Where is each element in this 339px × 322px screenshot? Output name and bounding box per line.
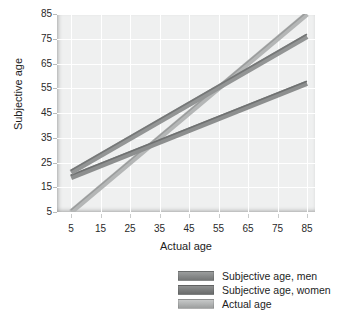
series-line-subjective-age-men	[71, 36, 307, 172]
series-line-subjective-age-women-edge	[71, 81, 307, 175]
x-axis-ticks: 5 15 25 35 45 55 65 75 85	[57, 214, 315, 240]
chart-legend: Subjective age, men Subjective age, wome…	[178, 269, 336, 311]
y-tick-label: 25	[30, 158, 52, 168]
legend-item-subjective-age-women: Subjective age, women	[178, 283, 336, 296]
y-tick-label: 65	[30, 59, 52, 69]
y-tick-label: 5	[30, 207, 52, 217]
x-tick-mark	[101, 214, 102, 218]
x-tick-mark	[71, 214, 72, 218]
x-tick-label: 5	[56, 223, 86, 234]
legend-swatch-icon	[178, 271, 214, 281]
series-line-subjective-age-women	[71, 83, 307, 177]
y-tick-label: 45	[30, 108, 52, 118]
x-tick-mark	[130, 214, 131, 218]
x-tick-mark	[189, 214, 190, 218]
legend-swatch-icon	[178, 285, 214, 295]
x-tick-label: 55	[204, 223, 234, 234]
legend-label: Subjective age, men	[222, 270, 317, 282]
x-tick-label: 45	[174, 223, 204, 234]
x-tick-label: 35	[145, 223, 175, 234]
plot-area	[57, 14, 315, 212]
y-tick-label: 15	[30, 182, 52, 192]
x-tick-mark	[219, 214, 220, 218]
x-tick-label: 75	[263, 223, 293, 234]
x-tick-label: 25	[115, 223, 145, 234]
y-axis-title: Subjective age	[12, 34, 24, 154]
x-tick-label: 85	[292, 223, 322, 234]
series-line-actual-age	[71, 14, 307, 212]
x-tick-label: 15	[86, 223, 116, 234]
y-tick-label: 75	[30, 34, 52, 44]
x-tick-mark	[278, 214, 279, 218]
legend-swatch-icon	[178, 299, 214, 309]
legend-label: Actual age	[222, 298, 272, 310]
x-tick-label: 65	[233, 223, 263, 234]
x-tick-mark	[307, 214, 308, 218]
series-layer	[57, 14, 315, 212]
legend-label: Subjective age, women	[222, 284, 331, 296]
series-line-subjective-age-men-edge	[71, 34, 307, 170]
x-tick-mark	[248, 214, 249, 218]
y-tick-mark	[53, 212, 57, 213]
y-tick-label: 85	[30, 9, 52, 19]
y-tick-label: 35	[30, 133, 52, 143]
legend-item-actual-age: Actual age	[178, 297, 336, 310]
y-tick-label: 55	[30, 83, 52, 93]
legend-item-subjective-age-men: Subjective age, men	[178, 269, 336, 282]
y-axis-ticks: 85 75 65 55 45 35 25 15 5	[26, 14, 52, 212]
x-tick-mark	[160, 214, 161, 218]
x-axis-title: Actual age	[57, 240, 315, 252]
chart-figure: Subjective age 85 75 65 55 45 35 25 15 5	[0, 0, 339, 322]
